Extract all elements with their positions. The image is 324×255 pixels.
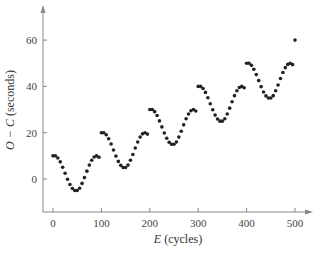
data-point <box>165 136 169 140</box>
data-point <box>257 79 261 83</box>
data-points <box>51 38 297 192</box>
data-point <box>83 176 87 180</box>
data-point <box>160 125 164 129</box>
data-point <box>88 163 92 167</box>
y-axis-label: O − C (seconds) <box>3 70 17 150</box>
data-point <box>158 119 162 123</box>
data-point <box>274 89 278 93</box>
x-tick-label: 300 <box>190 217 207 229</box>
y-tick-label: 40 <box>26 80 38 92</box>
data-point <box>281 71 285 75</box>
data-point <box>109 142 113 146</box>
data-point <box>138 135 142 139</box>
data-point <box>114 154 118 158</box>
data-point <box>179 130 183 134</box>
data-point <box>279 77 283 81</box>
data-point <box>293 38 297 42</box>
x-axis-label: E (cycles) <box>153 232 202 246</box>
data-point <box>146 132 150 136</box>
data-point <box>136 140 140 144</box>
y-tick-label: 20 <box>26 127 38 139</box>
data-point <box>204 91 208 95</box>
data-point <box>126 163 130 167</box>
axes: 01002003004005000204060 <box>26 5 313 229</box>
y-axis-arrow-icon <box>41 5 46 13</box>
data-point <box>112 148 116 152</box>
data-point <box>129 158 133 162</box>
data-point <box>80 182 84 186</box>
data-point <box>90 158 94 162</box>
data-point <box>117 160 121 164</box>
data-point <box>78 186 82 190</box>
data-point <box>242 86 246 90</box>
data-point <box>223 117 227 121</box>
data-point <box>85 169 89 173</box>
data-point <box>252 67 256 71</box>
data-point <box>211 108 215 112</box>
data-point <box>209 102 213 106</box>
data-point <box>163 131 167 135</box>
x-tick-label: 100 <box>93 217 110 229</box>
data-point <box>194 109 198 113</box>
data-point <box>233 94 237 98</box>
data-point <box>201 87 205 91</box>
data-point <box>262 90 266 94</box>
data-point <box>254 73 258 77</box>
data-point <box>66 177 70 181</box>
x-axis-arrow-icon <box>305 210 313 215</box>
data-point <box>182 123 186 127</box>
y-tick-label: 0 <box>32 173 38 185</box>
data-point <box>250 64 254 68</box>
data-point <box>97 155 101 159</box>
data-point <box>104 133 108 137</box>
x-tick-label: 0 <box>50 217 56 229</box>
data-point <box>133 146 137 150</box>
data-point <box>259 85 263 89</box>
data-point <box>206 96 210 100</box>
data-point <box>228 106 232 110</box>
data-point <box>175 140 179 144</box>
data-point <box>107 137 111 141</box>
x-tick-label: 200 <box>142 217 159 229</box>
data-point <box>187 112 191 116</box>
data-point <box>291 63 295 67</box>
data-point <box>235 89 239 93</box>
data-point <box>284 66 288 70</box>
data-point <box>271 94 275 98</box>
oc-diagram-chart: 01002003004005000204060 E (cycles) O − C… <box>0 0 324 255</box>
data-point <box>61 165 65 169</box>
data-point <box>68 183 72 187</box>
data-point <box>225 112 229 116</box>
data-point <box>155 114 159 118</box>
x-tick-label: 500 <box>287 217 304 229</box>
data-point <box>131 153 135 157</box>
data-point <box>58 160 62 164</box>
data-point <box>153 110 157 114</box>
data-point <box>184 117 188 121</box>
x-tick-label: 400 <box>238 217 255 229</box>
data-point <box>230 100 234 104</box>
data-point <box>276 83 280 87</box>
data-point <box>56 156 60 160</box>
y-tick-label: 60 <box>26 34 38 46</box>
data-point <box>213 113 217 117</box>
data-point <box>63 171 67 175</box>
data-point <box>177 135 181 139</box>
